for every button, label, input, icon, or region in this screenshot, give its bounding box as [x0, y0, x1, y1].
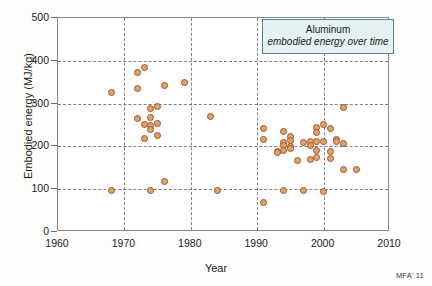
- data-point: [141, 64, 148, 71]
- data-point: [154, 120, 161, 127]
- x-axis-title: Year: [0, 262, 432, 274]
- data-point: [147, 126, 154, 133]
- data-point: [340, 166, 347, 173]
- legend-box: Aluminum embodied energy over time: [262, 19, 394, 54]
- y-tick-label: 0: [3, 226, 49, 236]
- data-point: [134, 69, 141, 76]
- data-point: [147, 114, 154, 121]
- data-point: [327, 125, 334, 132]
- x-tick-label: 1980: [170, 237, 210, 249]
- data-point: [327, 155, 334, 162]
- data-point: [161, 82, 168, 89]
- data-point: [294, 157, 301, 164]
- data-point: [313, 147, 320, 154]
- data-point: [287, 145, 294, 152]
- data-point: [207, 113, 214, 120]
- data-point: [141, 135, 148, 142]
- x-tick-label: 1990: [236, 237, 276, 249]
- chart-figure: 0100200300400500 Embodied energy (MJ/kg)…: [0, 0, 432, 286]
- legend-subtitle: embodied energy over time: [265, 36, 391, 48]
- x-tick-label: 1960: [37, 237, 77, 249]
- data-point: [214, 187, 221, 194]
- gridline-horizontal: [58, 146, 388, 147]
- data-point: [313, 154, 320, 161]
- data-point: [320, 121, 327, 128]
- gridline-vertical: [124, 18, 125, 230]
- gridline-horizontal: [58, 104, 388, 105]
- data-point: [181, 79, 188, 86]
- gridline-vertical: [191, 18, 192, 230]
- legend-title: Aluminum: [265, 24, 391, 36]
- data-point: [154, 132, 161, 139]
- data-point: [320, 138, 327, 145]
- data-point: [320, 188, 327, 195]
- data-point: [154, 103, 161, 110]
- data-point: [327, 148, 334, 155]
- data-point: [353, 166, 360, 173]
- data-point: [134, 115, 141, 122]
- data-point: [340, 140, 347, 147]
- y-axis-title: Embodied energy (MJ/kg): [22, 21, 34, 211]
- data-point: [313, 129, 320, 136]
- x-tick-label: 1970: [103, 237, 143, 249]
- data-point: [300, 187, 307, 194]
- data-point: [147, 187, 154, 194]
- data-point: [260, 199, 267, 206]
- data-point: [280, 187, 287, 194]
- y-tick-mark: [51, 231, 57, 232]
- gridline-vertical: [257, 18, 258, 230]
- data-point: [340, 104, 347, 111]
- data-point: [260, 125, 267, 132]
- data-point: [280, 128, 287, 135]
- data-point: [161, 178, 168, 185]
- x-tick-label: 2000: [303, 237, 343, 249]
- data-point: [108, 187, 115, 194]
- x-tick-label: 2010: [369, 237, 409, 249]
- data-point: [108, 89, 115, 96]
- gridline-horizontal: [58, 61, 388, 62]
- data-point: [260, 136, 267, 143]
- data-point: [134, 85, 141, 92]
